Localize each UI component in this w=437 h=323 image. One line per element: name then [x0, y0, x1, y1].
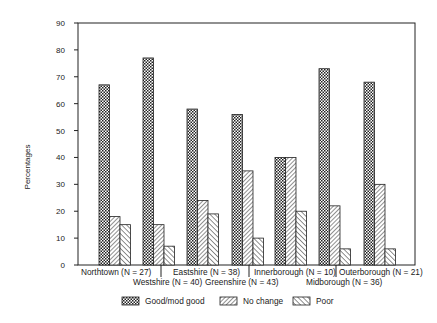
y-tick-label: 20	[56, 207, 65, 216]
plot-area: 0102030405060708090Northtown (N = 27)Wes…	[56, 19, 423, 287]
legend-swatch	[293, 297, 310, 305]
y-axis-label: Percentages	[23, 145, 32, 190]
y-tick-label: 90	[56, 19, 65, 28]
category-label: Northtown (N = 27)	[81, 267, 152, 277]
bar	[253, 238, 264, 265]
bar	[164, 246, 175, 265]
legend-swatch	[220, 297, 237, 305]
bar	[375, 184, 386, 265]
legend-label: No change	[243, 296, 284, 306]
y-tick-label: 80	[56, 46, 65, 55]
bar	[154, 225, 165, 265]
category-label: Westshire (N = 40)	[133, 277, 202, 287]
category-label: Midborough (N = 36)	[306, 277, 383, 287]
bar	[120, 225, 131, 265]
bar	[99, 85, 110, 265]
bar	[385, 249, 396, 265]
legend-label: Good/mod good	[145, 296, 205, 306]
bar	[364, 82, 375, 265]
category-label: Greenshire (N = 43)	[205, 277, 279, 287]
bar	[243, 171, 254, 265]
y-tick-label: 10	[56, 234, 65, 243]
legend-label: Poor	[316, 296, 334, 306]
bar	[143, 58, 154, 265]
category-label: Eastshire (N = 38)	[173, 267, 240, 277]
category-label: Outerborough (N = 21)	[339, 267, 423, 277]
y-tick-label: 30	[56, 180, 65, 189]
bar	[198, 200, 209, 265]
y-tick-label: 0	[61, 261, 66, 270]
y-tick-label: 70	[56, 73, 65, 82]
y-tick-label: 40	[56, 153, 65, 162]
bar	[232, 114, 243, 265]
y-tick-label: 60	[56, 100, 65, 109]
bar	[187, 109, 198, 265]
bar	[330, 206, 341, 265]
bar	[208, 214, 219, 265]
legend: Good/mod goodNo changePoor	[122, 296, 334, 306]
bar	[319, 69, 330, 265]
y-tick-label: 50	[56, 127, 65, 136]
bar-chart: 0102030405060708090Northtown (N = 27)Wes…	[0, 0, 437, 323]
bar	[110, 217, 121, 265]
category-label: Innerborough (N = 10)	[254, 267, 336, 277]
bar	[296, 211, 307, 265]
legend-swatch	[122, 297, 139, 305]
bar	[286, 157, 297, 265]
bar	[275, 157, 286, 265]
bar	[340, 249, 351, 265]
